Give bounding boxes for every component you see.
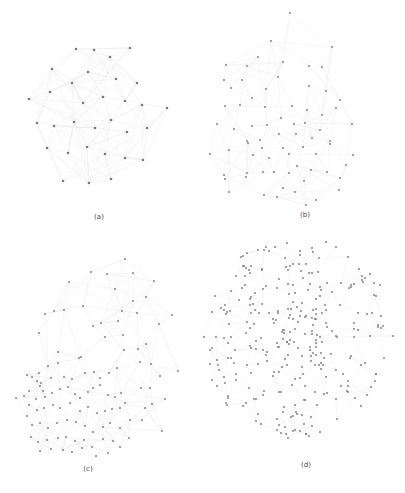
graph-node (312, 352, 314, 354)
graph-node (276, 418, 278, 420)
graph-node (266, 351, 268, 353)
graph-node (319, 336, 321, 338)
graph-node (335, 369, 337, 371)
graph-node (321, 341, 323, 343)
graph-node (268, 250, 270, 252)
graph-node (277, 310, 279, 312)
graph-node (291, 384, 293, 386)
graph-node (235, 379, 237, 381)
graph-node (325, 376, 327, 378)
graph-node (226, 404, 228, 406)
graph-node (288, 317, 290, 319)
graph-node (287, 354, 289, 356)
graph-node (323, 357, 325, 359)
graph-node (314, 318, 316, 320)
graph-node (295, 411, 297, 413)
graph-node (307, 289, 309, 291)
graph-node (309, 349, 311, 351)
graph-node (305, 433, 307, 435)
graph-node (285, 433, 287, 435)
graph-node (276, 429, 278, 431)
graph-node (308, 435, 310, 437)
graph-node (353, 322, 355, 324)
graph-node (244, 284, 246, 286)
graph-node (371, 312, 373, 314)
graph-node (366, 394, 368, 396)
graph-node (287, 283, 289, 285)
graph-node (301, 414, 303, 416)
graph-node (331, 291, 333, 293)
graph-node (282, 338, 284, 340)
graph-node (304, 333, 306, 335)
graph-node (319, 295, 321, 297)
graph-node (250, 265, 252, 267)
graph-node (250, 347, 252, 349)
graph-node (294, 404, 296, 406)
graph-node (242, 255, 244, 257)
graph-node (257, 413, 259, 415)
graph-node (263, 390, 265, 392)
graph-node (230, 357, 232, 359)
graph-node (377, 324, 379, 326)
graph-node (336, 418, 338, 420)
graph-node (312, 309, 314, 311)
graph-node (347, 391, 349, 393)
graph-node (318, 364, 320, 366)
graph-node (350, 355, 352, 357)
graph-node (262, 394, 264, 396)
graph-node (242, 265, 244, 267)
graph-node (211, 311, 213, 313)
graph-node (273, 371, 275, 373)
graph-node (286, 242, 288, 244)
graph-node (310, 416, 312, 418)
graph-node (349, 357, 351, 359)
graph-node (312, 324, 314, 326)
graph-node (274, 246, 276, 248)
graph-node (272, 375, 274, 377)
graph-node (211, 379, 213, 381)
graph-node (373, 294, 375, 296)
graph-node (380, 315, 382, 317)
graph-node (297, 321, 299, 323)
graph-node (361, 275, 363, 277)
graph-node (358, 268, 360, 270)
graph-node (246, 364, 248, 366)
graph-node (249, 345, 251, 347)
graph-node (353, 336, 355, 338)
graph-node (276, 287, 278, 289)
caption-a: (a) (94, 213, 104, 221)
graph-node (281, 331, 283, 333)
graph-node (364, 277, 366, 279)
graph-node (339, 304, 341, 306)
graph-node (282, 329, 284, 331)
graph-node (260, 423, 262, 425)
graph-node (294, 378, 296, 380)
graph-node (255, 340, 257, 342)
caption-d: (d) (301, 461, 311, 469)
graph-node (303, 399, 305, 401)
graph-node (246, 321, 248, 323)
graph-node (255, 348, 257, 350)
graph-node (315, 308, 317, 310)
graph-node (301, 366, 303, 368)
graph-node (377, 326, 379, 328)
graph-node (257, 363, 259, 365)
graph-node (314, 364, 316, 366)
graph-node (265, 285, 267, 287)
graph-node (301, 302, 303, 304)
caption-c: (c) (83, 465, 92, 473)
graph-node (294, 292, 296, 294)
graph-node (320, 362, 322, 364)
graph-node (382, 325, 384, 327)
graph-node (230, 290, 232, 292)
graph-node (310, 355, 312, 357)
graph-node (287, 269, 289, 271)
graph-node (302, 373, 304, 375)
graph-node (225, 402, 227, 404)
graph-node (340, 385, 342, 387)
graph-node (383, 357, 385, 359)
graph-node (265, 354, 267, 356)
graph-node (325, 322, 327, 324)
graph-node (296, 306, 298, 308)
graph-node (278, 278, 280, 280)
